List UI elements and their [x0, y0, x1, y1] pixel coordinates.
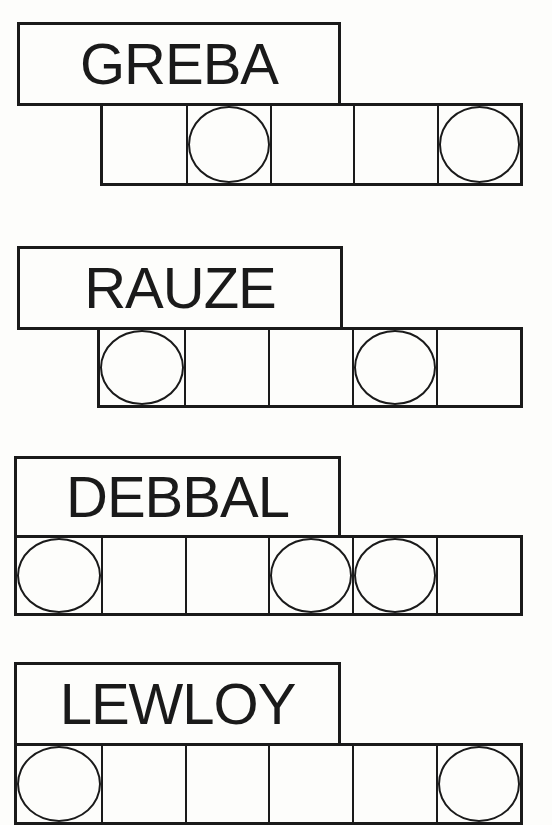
answer-cell[interactable] — [101, 538, 185, 613]
answer-cell[interactable] — [352, 330, 436, 405]
scrambled-word-box: DEBBAL — [14, 456, 341, 538]
answer-cells — [100, 103, 523, 186]
answer-cell[interactable] — [101, 746, 185, 822]
circle-marker-icon — [354, 538, 436, 613]
answer-cell[interactable] — [352, 538, 436, 613]
answer-cell[interactable] — [184, 330, 268, 405]
answer-cell[interactable] — [100, 330, 184, 405]
circle-marker-icon — [354, 330, 436, 405]
answer-cell[interactable] — [352, 746, 436, 822]
answer-cell[interactable] — [186, 106, 269, 183]
answer-cell[interactable] — [17, 538, 101, 613]
answer-cell[interactable] — [17, 746, 101, 822]
answer-cell[interactable] — [437, 106, 520, 183]
answer-cell[interactable] — [268, 330, 352, 405]
scrambled-word-box: GREBA — [17, 22, 341, 106]
answer-cell[interactable] — [353, 106, 436, 183]
answer-cell[interactable] — [436, 330, 520, 405]
circle-marker-icon — [270, 538, 352, 613]
circle-marker-icon — [17, 538, 101, 613]
scrambled-word-box: LEWLOY — [14, 662, 341, 746]
circle-marker-icon — [438, 746, 520, 822]
answer-cell[interactable] — [185, 746, 269, 822]
answer-cell[interactable] — [270, 106, 353, 183]
scrambled-word-box: RAUZE — [17, 246, 343, 330]
circle-marker-icon — [439, 106, 520, 183]
answer-cell[interactable] — [103, 106, 186, 183]
answer-cell[interactable] — [436, 746, 520, 822]
answer-cells — [97, 327, 523, 408]
answer-cell[interactable] — [185, 538, 269, 613]
circle-marker-icon — [17, 746, 101, 822]
answer-cell[interactable] — [268, 538, 352, 613]
circle-marker-icon — [100, 330, 184, 405]
answer-cells — [14, 535, 523, 616]
answer-cell[interactable] — [268, 746, 352, 822]
answer-cell[interactable] — [436, 538, 520, 613]
answer-cells — [14, 743, 523, 825]
circle-marker-icon — [188, 106, 269, 183]
